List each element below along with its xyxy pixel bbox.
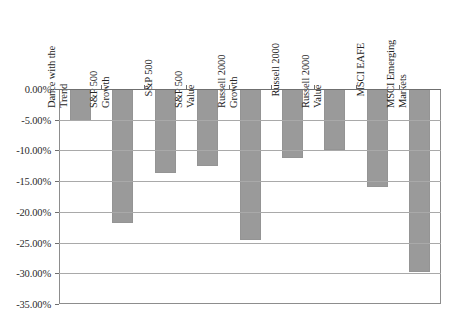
category-label-line: Trend bbox=[58, 46, 70, 108]
x-axis-tick-mark bbox=[229, 85, 230, 89]
gridline bbox=[59, 273, 441, 274]
x-axis-tick-mark bbox=[144, 85, 145, 89]
x-axis-tick-mark bbox=[101, 85, 102, 89]
category-label-line: Russell 2000 bbox=[216, 55, 228, 108]
x-axis-tick-mark bbox=[314, 85, 315, 89]
category-label: Russell 2000Value bbox=[300, 55, 323, 108]
category-label-line: Value bbox=[312, 55, 324, 108]
gridline bbox=[59, 181, 441, 182]
category-label: Dance with theTrend bbox=[46, 46, 69, 108]
category-label: MSCI EmergingMarkets bbox=[385, 40, 408, 108]
category-label-line: Dance with the bbox=[46, 46, 58, 108]
x-axis-tick-mark bbox=[356, 85, 357, 89]
category-label-line: S&P 500 bbox=[143, 59, 155, 96]
gridline bbox=[59, 243, 441, 244]
x-axis-tick-mark bbox=[399, 85, 400, 89]
gridline bbox=[59, 120, 441, 121]
category-label-line: MSCI Emerging bbox=[385, 40, 397, 108]
category-label-line: Markets bbox=[397, 40, 409, 108]
zero-baseline bbox=[59, 89, 441, 90]
gridline bbox=[59, 212, 441, 213]
category-label: S&P 500 bbox=[143, 59, 155, 96]
x-axis-tick-mark bbox=[186, 85, 187, 89]
gridline bbox=[59, 150, 441, 151]
y-axis-tick-mark bbox=[55, 304, 59, 305]
bar-chart: 0.00%-5.00%-10.00%-15.00%-20.00%-25.00%-… bbox=[0, 0, 457, 322]
category-label: Russell 2000Growth bbox=[216, 55, 239, 108]
x-axis-tick-mark bbox=[271, 85, 272, 89]
category-label-line: Growth bbox=[228, 55, 240, 108]
category-label-line: Russell 2000 bbox=[300, 55, 312, 108]
